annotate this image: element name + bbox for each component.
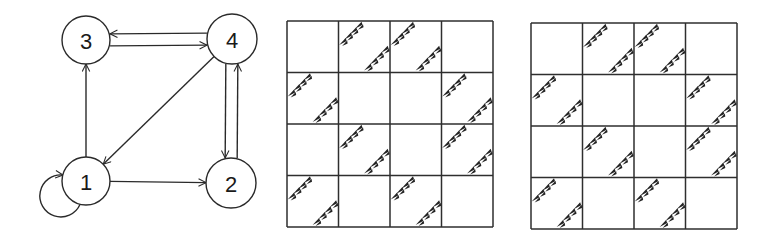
matrix-cell-r1-c3-filled [391, 22, 442, 72]
matrix-cell-r4-c1-filled [288, 176, 339, 226]
node-label: 1 [80, 170, 92, 195]
edge-4-to-1 [103, 56, 214, 164]
matrix-cell-r3-c4-filled [442, 125, 493, 175]
figure-canvas: 1234 [0, 0, 776, 239]
graph-node-3: 3 [62, 16, 110, 64]
matrix-cell-r2-c4-filled [442, 73, 493, 123]
matrix-cell-r3-c2-filled [339, 125, 390, 175]
matrix-cell-r3-c2-filled [583, 127, 634, 177]
edge-2-to-4 [237, 64, 238, 158]
matrix-cell-r2-c1-filled [288, 73, 339, 123]
node-label: 2 [225, 172, 237, 197]
edge-3-to-4 [110, 45, 207, 46]
graph-nodes: 1234 [62, 14, 257, 208]
adjacency-matrices [287, 21, 737, 229]
matrix-cell-r2-c4-filled [686, 75, 737, 125]
matrix-cell-r1-c3-filled [635, 24, 686, 74]
matrix-cell-r4-c3-filled [391, 176, 442, 226]
matrix-cell-r1-c2-filled [339, 22, 390, 72]
matrix-cell-r4-c3-filled [635, 178, 686, 228]
matrix-cell-r4-c1-filled [532, 178, 583, 228]
node-label: 4 [226, 28, 238, 53]
graph-node-2: 2 [206, 158, 256, 208]
directed-graph: 1234 [40, 14, 257, 217]
graph-node-4: 4 [207, 14, 257, 64]
adjacency-matrix-b [531, 23, 737, 229]
adjacency-matrix-a [287, 21, 493, 227]
matrix-cell-r2-c1-filled [532, 75, 583, 125]
edge-4-to-3 [110, 33, 207, 34]
edge-1-to-2 [110, 181, 206, 182]
edge-4-to-2 [225, 64, 226, 158]
matrix-cell-r3-c4-filled [686, 127, 737, 177]
node-label: 3 [80, 29, 92, 54]
graph-node-1: 1 [62, 157, 110, 205]
matrix-cell-r1-c2-filled [583, 24, 634, 74]
